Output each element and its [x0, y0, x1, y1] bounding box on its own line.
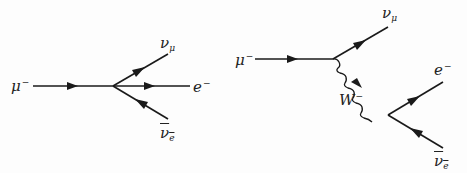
w-arrow-icon: [351, 78, 362, 88]
electron-arrow-icon: [407, 96, 420, 106]
right-diagram: [255, 27, 443, 148]
label-muon-left: μ−: [11, 78, 29, 94]
label-anti-nu-e-right: νe: [434, 154, 448, 171]
label-electron-left: e−: [193, 79, 210, 95]
label-w-boson: W−: [339, 92, 363, 108]
label-nu-mu-right: νμ: [382, 6, 397, 23]
muon-arrow-icon: [67, 82, 78, 90]
label-electron-right: e−: [434, 62, 451, 78]
label-anti-nu-e-left: νe: [160, 126, 174, 143]
electron-arrow-icon: [144, 82, 155, 90]
anti-nu-e-arrow-icon: [135, 99, 148, 109]
diagram-graphics: [0, 0, 467, 173]
label-muon-right: μ−: [235, 52, 253, 68]
anti-nu-e-arrow-icon: [410, 128, 423, 138]
label-nu-mu-left: νμ: [160, 36, 175, 53]
nu-mu-arrow-icon: [353, 40, 366, 50]
left-diagram: [33, 54, 190, 119]
muon-arrow-icon: [287, 55, 298, 63]
nu-mu-arrow-icon: [132, 67, 145, 77]
feynman-diagrams-figure: μ− νμ e− νe μ− νμ W− e− νe: [0, 0, 467, 173]
